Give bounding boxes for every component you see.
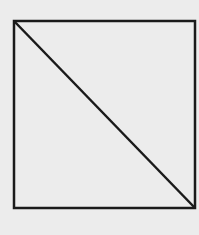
diagonal-line (14, 21, 195, 208)
diagram-svg (0, 0, 199, 235)
diagram-canvas (0, 0, 199, 235)
